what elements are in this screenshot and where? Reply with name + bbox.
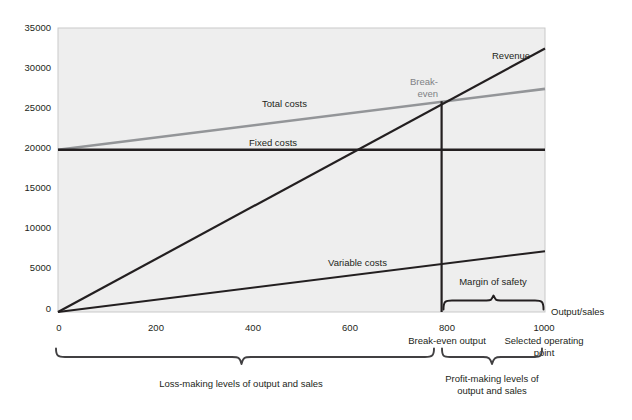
y-tick-30000: 30000 xyxy=(25,62,51,73)
break-even-annotation-line1: Break- xyxy=(410,76,438,87)
y-tick-10000: 10000 xyxy=(25,222,51,233)
break-even-output-label: Break-even output xyxy=(408,335,486,346)
plot-area-background xyxy=(58,28,545,312)
series-label-fixed-costs: Fixed costs xyxy=(249,137,297,148)
profit-making-label-line1: Profit-making levels of xyxy=(445,373,539,384)
y-tick-20000: 20000 xyxy=(25,142,51,153)
chart-canvas: 35000 30000 25000 20000 15000 10000 5000… xyxy=(0,0,632,420)
x-axis-title: Output/sales xyxy=(551,306,605,317)
x-tick-800: 800 xyxy=(439,322,455,333)
series-label-revenue: Revenue xyxy=(492,50,530,61)
selected-operating-point-label-line1: Selected operating xyxy=(504,335,583,346)
x-tick-200: 200 xyxy=(148,322,164,333)
profit-making-label-line2: output and sales xyxy=(457,385,527,396)
y-tick-15000: 15000 xyxy=(25,182,51,193)
y-tick-35000: 35000 xyxy=(25,22,51,33)
y-axis-tick-labels: 35000 30000 25000 20000 15000 10000 5000… xyxy=(25,22,51,314)
series-label-total-costs: Total costs xyxy=(262,98,307,109)
x-tick-1000: 1000 xyxy=(533,322,554,333)
y-tick-25000: 25000 xyxy=(25,102,51,113)
x-tick-0: 0 xyxy=(56,322,61,333)
y-tick-5000: 5000 xyxy=(30,262,51,273)
loss-making-brace xyxy=(56,349,434,365)
x-tick-600: 600 xyxy=(342,322,358,333)
margin-of-safety-label: Margin of safety xyxy=(459,276,527,287)
y-tick-0: 0 xyxy=(46,303,51,314)
x-axis-tick-labels: 0 200 400 600 800 1000 xyxy=(56,322,554,333)
x-tick-400: 400 xyxy=(245,322,261,333)
profit-making-brace xyxy=(442,349,542,365)
break-even-annotation-line2: even xyxy=(417,88,438,99)
loss-making-label: Loss-making levels of output and sales xyxy=(159,378,323,389)
series-label-variable-costs: Variable costs xyxy=(328,257,387,268)
break-even-chart-figure: 35000 30000 25000 20000 15000 10000 5000… xyxy=(0,0,632,420)
